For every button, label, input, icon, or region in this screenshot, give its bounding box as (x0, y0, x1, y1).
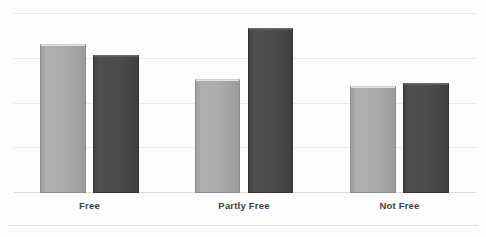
gridline-4 (14, 13, 476, 14)
bar-free-series-1[interactable] (40, 44, 86, 193)
bottom-rule (8, 225, 478, 226)
category-label-not-free: Not Free (350, 200, 449, 211)
category-axis: Free Partly Free Not Free (0, 193, 486, 223)
bar-chart: Free Partly Free Not Free (0, 0, 486, 237)
bar-free-series-2[interactable] (93, 55, 139, 193)
category-label-free: Free (40, 200, 139, 211)
bar-not-free-series-2[interactable] (403, 83, 449, 193)
bar-partly-free-series-2[interactable] (248, 28, 293, 193)
bar-partly-free-series-1[interactable] (195, 79, 240, 193)
bar-not-free-series-1[interactable] (350, 86, 396, 193)
plot-area (0, 0, 486, 193)
category-label-partly-free: Partly Free (195, 200, 293, 211)
